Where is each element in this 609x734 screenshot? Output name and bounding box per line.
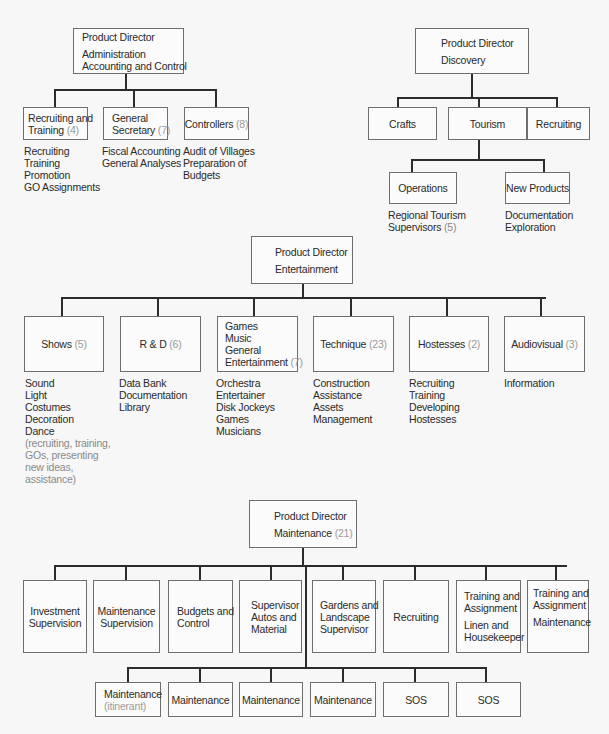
duty: Preparation of [183,157,255,169]
duty: Information [504,377,554,389]
box-label: SOS [405,694,427,706]
maint-unit-box: Maintenance [310,682,376,717]
connector [61,297,546,299]
connector [199,565,201,581]
duty: Sound [25,377,110,389]
box-sublabel: Maintenance [533,616,591,628]
discovery-director-title: Product Director [441,37,514,49]
connector [540,297,542,316]
rd-duties: Data Bank Documentation Library [119,377,187,413]
duty: Documentation [505,209,573,221]
box-label: Shows [41,338,72,350]
hostesses-duties: Recruiting Training Developing Hostesses [409,377,460,425]
entertainment-shows-box: Shows (5) [24,316,104,372]
box-note: (itinerant) [104,700,146,712]
connector [199,667,201,683]
staff-count: (5) [444,221,456,233]
connector [54,89,217,91]
connector [342,667,344,683]
staff-count: (6) [169,338,181,350]
connector [543,159,545,172]
maint-supervisor-autos-box: Supervisor Autos and Material [239,580,302,653]
box-label: Tourism [470,118,505,130]
duty: Promotion [24,169,100,181]
connector [125,565,127,581]
box-label: Material [251,623,287,635]
box-label: Maintenance [172,694,230,706]
connector [485,565,487,581]
duty: Management [313,413,372,425]
box-label: General [112,112,148,124]
admin-director-box: Product Director Administration Accounti… [73,28,184,74]
box-label: New Products [506,182,569,194]
entertainment-rd-box: R & D (6) [120,316,201,372]
admin-secretary-duties: Fiscal Accounting General Analyses [102,145,181,169]
new-products-duties: Documentation Exploration [505,209,573,233]
maint-unit-itinerant-box: Maintenance (itinerant) [95,682,161,717]
box-label: Control [177,617,209,629]
duty: Hostesses [409,413,460,425]
maintenance-director-dept: Maintenance [274,527,332,539]
connector [485,667,487,683]
maint-investment-supervision-box: Investment Supervision [23,580,87,653]
connector [555,565,557,581]
box-label: Crafts [389,118,416,130]
entertainment-audiovisual-box: Audiovisual (3) [504,316,585,372]
box-label: Controllers [185,118,234,130]
entertainment-technique-box: Technique (23) [313,316,394,372]
discovery-recruiting-box: Recruiting [527,107,590,140]
connector [215,89,217,107]
duty: Data Bank [119,377,187,389]
duty-note: GOs, presenting [25,449,110,461]
box-label: Games [225,320,258,332]
audiovisual-duties: Information [504,377,554,389]
maint-gardens-landscape-box: Gardens and Landscape Supervisor [312,580,376,653]
duty: Training [409,389,460,401]
discovery-director-box: Product Director Discovery [415,28,529,74]
box-label: Hostesses [418,338,465,350]
duty: Costumes [25,401,110,413]
duty: Developing [409,401,460,413]
box-label: Technique [320,338,366,350]
maintenance-director-title: Product Director [274,510,347,522]
duty: Recruiting [24,145,100,157]
connector [54,565,56,581]
box-label: Operations [398,182,447,194]
connector [270,565,272,581]
connector [270,667,272,683]
maint-maintenance-supervision-box: Maintenance Supervision [93,580,160,653]
box-label: Entertainment [225,356,288,368]
connector [414,667,416,683]
operations-duties: Regional Tourism Supervisors (5) [388,209,466,233]
staff-count: (2) [468,338,480,350]
duty: Musicians [216,425,275,437]
box-label: Maintenance [242,694,300,706]
connector [133,89,135,107]
connector [253,297,255,316]
connector [54,89,56,107]
duty: Regional Tourism [388,209,466,221]
connector [342,565,344,581]
duty-note: new ideas, [25,461,110,473]
technique-duties: Construction Assistance Assets Managemen… [313,377,372,425]
maint-unit-box: Maintenance [239,682,303,717]
box-label: Supervisor [320,623,368,635]
box-label: Recruiting [536,118,581,130]
staff-count: (21) [335,527,353,539]
connector [411,159,413,172]
box-label: Investment [30,605,79,617]
discovery-director-dept: Discovery [441,54,485,66]
box-label: Audiovisual [511,338,563,350]
box-sublabel: Housekeeper [464,631,524,643]
connector [350,297,352,316]
duty: Exploration [505,221,573,233]
box-label: Supervision [29,617,82,629]
duty: Supervisors [388,221,441,233]
connector [397,97,399,107]
discovery-tourism-box: Tourism [448,107,527,140]
staff-count: (4) [67,124,79,136]
box-label: Budgets and [177,605,234,617]
box-label: Secretary [112,124,155,136]
duty: Library [119,401,187,413]
box-label: Training and [533,587,589,599]
